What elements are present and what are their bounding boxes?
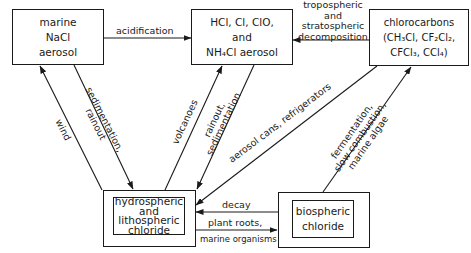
node-marine-nacl-aerosol: marine NaCl aerosol [12, 9, 104, 65]
node-line: marine [39, 15, 76, 30]
node-biospheric-outer: biospheric chloride [278, 192, 370, 248]
label-plant-roots: plant roots, [208, 217, 262, 228]
node-hcl-aerosol: HCl, Cl, ClO, and NH₄Cl aerosol [191, 9, 293, 65]
node-line: chlorocarbons [384, 15, 455, 30]
node-line: (CH₃Cl, CF₂Cl₂, [383, 30, 455, 45]
label-marine-organisms: marine organisms [200, 234, 277, 245]
label-line: stratospheric [296, 21, 370, 32]
node-line: HCl, Cl, ClO, [210, 15, 274, 30]
label-line: tropospheric [296, 0, 370, 11]
node-line: aerosol [39, 45, 77, 60]
label-line: decomposition [296, 32, 370, 43]
node-line: NH₄Cl aerosol [206, 45, 278, 60]
node-biospheric-chloride: biospheric chloride [292, 200, 354, 238]
node-line: biospheric [296, 204, 350, 219]
node-line: and [232, 30, 252, 45]
node-chlorocarbons: chlorocarbons (CH₃Cl, CF₂Cl₂, CFCl₃, CCl… [369, 9, 469, 66]
node-line: NaCl [46, 30, 71, 45]
node-hydrospheric-outer: hydrospheric and lithospheric chloride [103, 190, 196, 247]
label-acidification: acidification [116, 25, 174, 36]
node-line: chloride [128, 226, 170, 236]
label-decomposition: tropospheric and stratospheric decomposi… [296, 0, 370, 42]
node-line: CFCl₃, CCl₄) [390, 45, 448, 60]
node-hydrospheric-lithospheric-chloride: hydrospheric and lithospheric chloride [113, 197, 185, 235]
node-line: chloride [302, 219, 344, 234]
label-decay: decay [222, 199, 251, 210]
